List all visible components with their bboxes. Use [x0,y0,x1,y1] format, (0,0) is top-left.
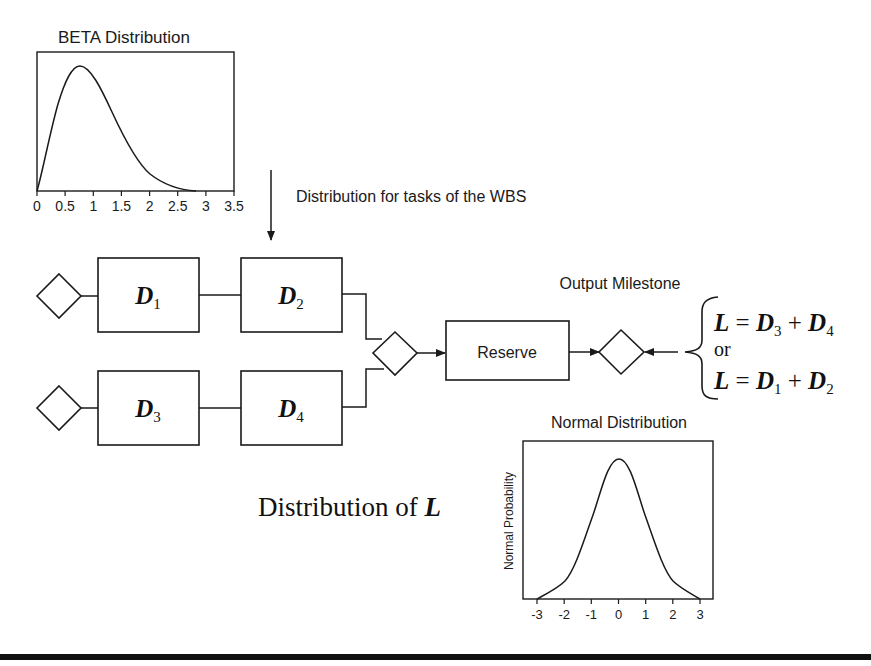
task-chain-1: D1 D2 [37,258,382,339]
connector-d4-merge [342,369,384,407]
beta-tick-label: 1 [89,198,97,214]
beta-tick-label: 3 [202,198,210,214]
normal-tick-label: 2 [669,607,676,622]
beta-plot-frame [37,52,234,191]
beta-tick-label: 2.5 [168,198,188,214]
start-milestone-2-diamond-icon [37,386,81,430]
normal-tick-label: -2 [558,607,570,622]
merge-and-output: Reserve Output Milestone [373,275,681,380]
task-chain-2: D3 D4 [37,369,384,445]
output-milestone-diamond-icon [599,330,644,374]
beta-tick-label: 0.5 [55,198,75,214]
beta-x-axis-ticks [37,191,234,196]
distribution-of-l-label: Distribution of L [258,492,441,522]
reserve-label: Reserve [477,344,537,361]
bottom-divider [0,654,871,660]
normal-curve [537,459,700,599]
normal-tick-label: 0 [615,607,622,622]
normal-x-tick-labels: -3 -2 -1 0 1 2 3 [531,607,703,622]
normal-distribution-chart: Normal Distribution Normal Probability -… [502,414,713,622]
beta-x-tick-labels: 0 0.5 1 1.5 2 2.5 3 3.5 [33,198,244,214]
beta-distribution-chart: BETA Distribution 0 0.5 1 1.5 2 2.5 3 3.… [33,28,244,214]
normal-tick-label: 1 [642,607,649,622]
beta-tick-label: 3.5 [224,198,244,214]
normal-plot-frame [523,441,713,599]
equation-line-1: L = D3 + D4 [713,309,834,339]
equation-line-2: L = D1 + D2 [713,367,834,397]
normal-tick-label: 3 [696,607,703,622]
output-milestone-label: Output Milestone [560,275,681,292]
start-milestone-1-diamond-icon [37,274,81,318]
normal-tick-label: -3 [531,607,543,622]
wbs-distribution-pointer: Distribution for tasks of the WBS [271,170,526,240]
diagram-canvas: BETA Distribution 0 0.5 1 1.5 2 2.5 3 3.… [0,0,871,666]
equations-block: L = D3 + D4 or L = D1 + D2 [685,297,834,399]
beta-tick-label: 1.5 [112,198,132,214]
normal-y-axis-label: Normal Probability [502,472,516,570]
equation-or: or [714,338,731,360]
beta-tick-label: 2 [146,198,154,214]
connector-d2-merge [342,294,382,339]
wbs-distribution-label: Distribution for tasks of the WBS [296,188,526,205]
normal-x-axis-ticks [537,599,700,604]
beta-tick-label: 0 [33,198,41,214]
normal-chart-title: Normal Distribution [551,414,687,431]
beta-curve [37,66,196,191]
normal-tick-label: -1 [586,607,598,622]
beta-chart-title: BETA Distribution [58,28,190,47]
